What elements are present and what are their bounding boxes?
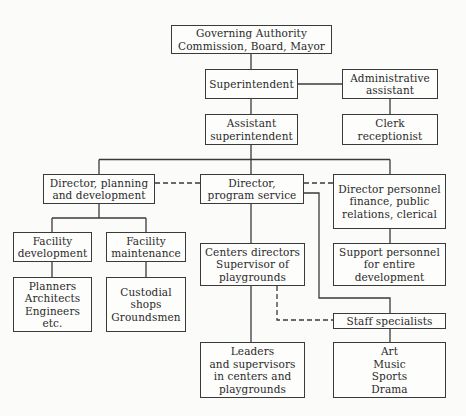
node-director-personnel: Director personnel finance, public relat… (333, 174, 446, 229)
node-label: Administrative (350, 72, 430, 85)
node-clerk-receptionist: Clerk receptionist (342, 114, 438, 145)
node-label: Director, planning (50, 177, 148, 190)
node-label: Superintendent (209, 78, 294, 91)
node-label: Sports (372, 370, 407, 383)
node-label: Director, (228, 177, 276, 190)
node-centers-directors: Centers directors Supervisor of playgrou… (200, 243, 305, 286)
node-label: shops (130, 298, 161, 311)
node-superintendent: Superintendent (205, 69, 298, 99)
node-label: Supervisor of (216, 258, 289, 271)
node-label: Planners (29, 280, 77, 293)
node-label: Staff specialists (346, 315, 432, 328)
node-administrative-assistant: Administrative assistant (342, 69, 438, 99)
node-label: Leaders (231, 345, 275, 358)
node-facility-maintenance: Facility maintenance (106, 232, 186, 262)
node-planners: Planners Architects Engineers etc. (13, 277, 92, 332)
node-label: relations, clerical (342, 208, 437, 221)
node-label: and development (52, 189, 145, 202)
node-label: Music (373, 358, 406, 371)
node-governing-authority: Governing Authority Commission, Board, M… (171, 25, 332, 54)
node-leaders: Leaders and supervisors in centers and p… (200, 342, 305, 398)
node-label: playgrounds (219, 271, 286, 284)
node-support-personnel: Support personnel for entire development (333, 243, 446, 286)
node-label: Groundsmen (111, 311, 180, 324)
node-label: program service (208, 189, 297, 202)
node-label: Governing Authority (196, 27, 307, 40)
node-label: Engineers (25, 305, 80, 318)
node-director-program: Director, program service (200, 174, 304, 204)
node-label: Drama (371, 383, 407, 396)
node-label: receptionist (358, 130, 423, 143)
node-label: development (355, 271, 425, 284)
node-label: Custodial (120, 286, 171, 299)
node-custodial: Custodial shops Groundsmen (106, 277, 186, 332)
node-director-planning: Director, planning and development (43, 174, 155, 204)
node-label: Art (381, 345, 398, 358)
node-label: Clerk (375, 117, 405, 130)
node-arts: Art Music Sports Drama (333, 342, 446, 398)
node-label: for entire (364, 258, 415, 271)
node-label: Architects (25, 292, 81, 305)
node-label: Director personnel (338, 183, 440, 196)
node-label: superintendent (210, 130, 293, 143)
node-label: Centers directors (205, 246, 300, 259)
node-label: development (18, 247, 88, 260)
node-label: playgrounds (219, 383, 286, 396)
node-label: etc. (42, 317, 62, 330)
node-label: Facility (33, 235, 73, 248)
node-label: in centers and (214, 370, 292, 383)
node-label: maintenance (111, 247, 181, 260)
node-label: finance, public (349, 195, 429, 208)
node-label: Assistant (227, 117, 276, 130)
node-label: assistant (366, 84, 414, 97)
node-label: Commission, Board, Mayor (178, 40, 325, 53)
node-assistant-superintendent: Assistant superintendent (205, 114, 298, 145)
node-staff-specialists: Staff specialists (333, 313, 446, 329)
node-facility-development: Facility development (13, 232, 92, 262)
node-label: Support personnel (339, 246, 440, 259)
node-label: and supervisors (209, 358, 295, 371)
node-label: Facility (126, 235, 166, 248)
